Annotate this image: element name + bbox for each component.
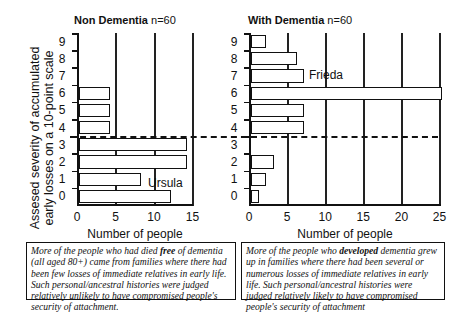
y-tick-label: 0 <box>56 189 68 203</box>
y-tick-label: 4 <box>228 121 240 135</box>
x-tick-label: 10 <box>315 210 335 224</box>
y-axis-label-line1: Assesed severity of accumulated <box>28 47 42 230</box>
bar-severity-2 <box>79 155 187 168</box>
caption-emphasis: developed <box>339 245 378 256</box>
right-panel-title-group: With Dementia <box>248 14 324 26</box>
bar-severity-5 <box>79 104 110 117</box>
y-tick <box>72 33 78 35</box>
gridline <box>401 33 403 206</box>
left-panel-n: n=60 <box>151 14 176 26</box>
right-caption: More of the people who developed dementi… <box>241 242 445 300</box>
caption-emphasis: free <box>160 245 175 256</box>
y-tick-label: 5 <box>228 103 240 117</box>
y-tick-label: 6 <box>56 86 68 100</box>
bar-severity-1 <box>251 173 266 186</box>
y-tick <box>244 67 250 69</box>
y-tick <box>72 119 78 121</box>
x-tick-label: 5 <box>106 210 126 224</box>
bar-severity-7 <box>251 69 304 82</box>
left-panel-title: Non Dementia n=60 <box>74 14 176 26</box>
x-axis <box>249 204 441 206</box>
annotation-ursula: Ursula <box>148 176 183 190</box>
y-tick <box>244 119 250 121</box>
left-panel-title-group: Non Dementia <box>74 14 148 26</box>
y-tick-label: 3 <box>228 138 240 152</box>
y-tick <box>72 153 78 155</box>
y-tick <box>72 50 78 52</box>
y-tick <box>72 188 78 190</box>
x-tick-label: 25 <box>430 210 450 224</box>
y-tick <box>244 102 250 104</box>
bar-severity-3 <box>79 138 187 151</box>
bar-severity-5 <box>251 104 304 117</box>
y-tick-label: 5 <box>56 103 68 117</box>
x-tick-label: 15 <box>183 210 203 224</box>
right-panel-title: With Dementia n=60 <box>248 14 352 26</box>
gridline <box>363 33 365 206</box>
y-tick <box>244 188 250 190</box>
bar-severity-8 <box>251 52 297 65</box>
x-tick-label: 15 <box>353 210 373 224</box>
y-tick-label: 9 <box>56 35 68 49</box>
y-tick-label: 1 <box>56 172 68 186</box>
y-tick <box>72 85 78 87</box>
x-tick-label: 0 <box>67 210 87 224</box>
y-tick-label: 1 <box>228 172 240 186</box>
y-tick-label: 4 <box>56 121 68 135</box>
bar-severity-4 <box>79 121 110 134</box>
y-tick <box>244 33 250 35</box>
x-tick-label: 20 <box>391 210 411 224</box>
y-tick-label: 8 <box>228 52 240 66</box>
y-tick-label: 3 <box>56 138 68 152</box>
gridline <box>192 33 194 206</box>
bar-severity-2 <box>251 155 274 168</box>
y-tick <box>244 153 250 155</box>
y-tick <box>244 85 250 87</box>
bar-severity-6 <box>79 87 110 100</box>
right-bar-chart <box>249 33 441 206</box>
caption-text: More of the people who had died <box>31 245 160 256</box>
x-tick-label: 10 <box>144 210 164 224</box>
y-tick-label: 6 <box>228 86 240 100</box>
y-tick <box>72 67 78 69</box>
y-tick-label: 9 <box>228 35 240 49</box>
left-x-axis-label: Number of people <box>75 227 195 241</box>
bar-severity-0 <box>79 190 171 203</box>
y-tick-label: 2 <box>228 155 240 169</box>
x-tick-label: 0 <box>239 210 259 224</box>
right-panel-n: n=60 <box>327 14 352 26</box>
bar-severity-9 <box>251 35 266 48</box>
x-tick-label: 5 <box>277 210 297 224</box>
bar-severity-6 <box>251 87 442 100</box>
y-tick-label: 8 <box>56 52 68 66</box>
y-tick-label: 0 <box>228 189 240 203</box>
gridline <box>439 33 441 206</box>
y-tick <box>72 102 78 104</box>
y-tick <box>244 50 250 52</box>
y-axis-label-line2: early losses on a 10-point scale <box>42 47 56 230</box>
y-tick-label: 2 <box>56 155 68 169</box>
annotation-frieda: Frieda <box>309 68 343 82</box>
caption-text: More of the people who <box>246 245 339 256</box>
right-x-axis-label: Number of people <box>285 227 405 241</box>
gridline <box>325 33 327 206</box>
bar-severity-4 <box>251 121 304 134</box>
y-tick <box>72 171 78 173</box>
y-tick-label: 7 <box>56 69 68 83</box>
threshold-dashed-line <box>70 136 438 138</box>
left-caption: More of the people who had died free of … <box>26 242 236 300</box>
x-axis <box>77 204 193 206</box>
y-tick-label: 7 <box>228 69 240 83</box>
bar-severity-0 <box>251 190 259 203</box>
y-tick <box>244 171 250 173</box>
bar-severity-1 <box>79 173 141 186</box>
